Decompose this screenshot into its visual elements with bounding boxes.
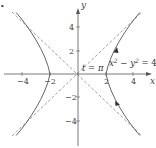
y-tick-label: −4 (65, 117, 77, 126)
corner-mark: • (0, 2, 5, 11)
y-tick-label: 4 (69, 23, 74, 32)
hyperbola-diagram: • −4 −2 2 4 4 2 −2 −4 x y x2 − y2 = 4 t … (0, 0, 156, 148)
direction-arrow-down-icon (115, 101, 120, 106)
y-tick-label: −2 (65, 93, 77, 102)
equation-label: x2 − y2 = 4 (109, 57, 156, 68)
x-tick-label: −4 (17, 77, 29, 86)
x-axis-label: x (150, 76, 155, 86)
x-tick-label: −2 (44, 77, 56, 86)
y-axis-arrow-icon (76, 8, 80, 14)
x-tick-label: 4 (131, 77, 136, 86)
parameter-label: t = π (82, 63, 104, 73)
y-axis-label: y (80, 0, 87, 10)
y-tick-label: 2 (69, 47, 74, 56)
